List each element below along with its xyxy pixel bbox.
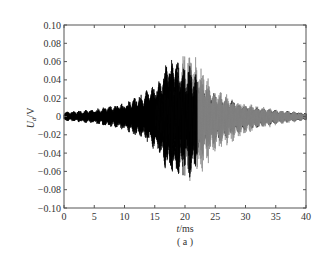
y-tick-labels: 0.100.080.060.040.020−0.02−0.04−0.06−0.0… bbox=[38, 20, 61, 214]
y-axis-label: Ud/V bbox=[25, 107, 38, 129]
y-tick-label: 0 bbox=[56, 111, 61, 122]
y-tick-label: −0.02 bbox=[38, 129, 61, 140]
x-tick-label: 15 bbox=[150, 211, 160, 222]
x-tick-labels: 0510152025303540 bbox=[62, 211, 312, 222]
y-tick-label: −0.04 bbox=[38, 148, 61, 159]
waveform-line bbox=[149, 60, 197, 177]
y-tick-label: −0.08 bbox=[38, 184, 61, 195]
x-tick-label: 5 bbox=[92, 211, 97, 222]
x-tick-label: 10 bbox=[120, 211, 130, 222]
y-tick-label: −0.10 bbox=[38, 203, 61, 214]
y-tick-label: 0.08 bbox=[44, 38, 62, 49]
y-tick-label: −0.06 bbox=[38, 166, 61, 177]
figure-caption: ( a ) bbox=[177, 236, 193, 248]
x-tick-label: 40 bbox=[301, 211, 311, 222]
x-tick-label: 25 bbox=[210, 211, 220, 222]
x-tick-label: 0 bbox=[62, 211, 67, 222]
x-tick-label: 35 bbox=[271, 211, 281, 222]
y-tick-label: 0.10 bbox=[44, 20, 62, 31]
waveform-series bbox=[64, 56, 306, 181]
y-tick-label: 0.04 bbox=[44, 74, 62, 85]
x-tick-label: 30 bbox=[241, 211, 251, 222]
x-axis-label: t/ms bbox=[176, 223, 193, 234]
y-tick-label: 0.06 bbox=[44, 56, 62, 67]
x-tick-label: 20 bbox=[180, 211, 190, 222]
y-tick-label: 0.02 bbox=[44, 93, 62, 104]
waveform-chart: 0510152025303540 0.100.080.060.040.020−0… bbox=[0, 0, 325, 260]
